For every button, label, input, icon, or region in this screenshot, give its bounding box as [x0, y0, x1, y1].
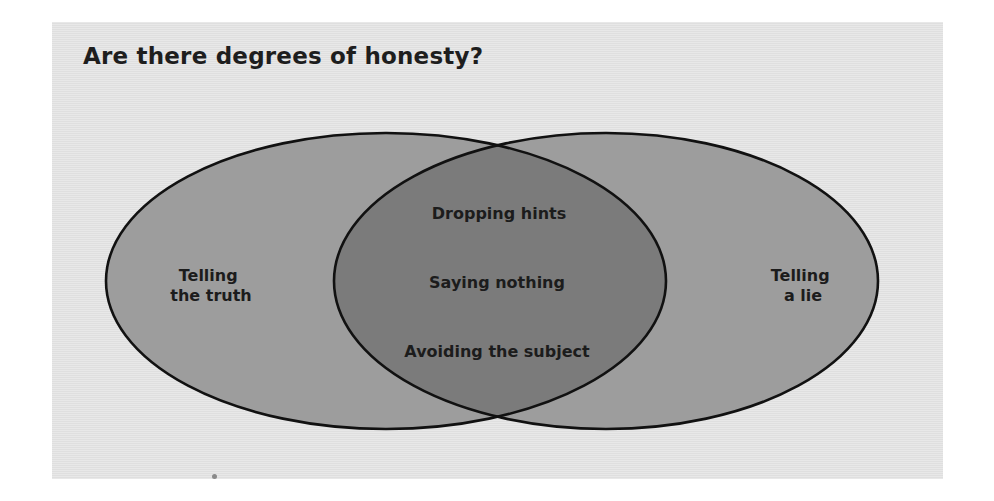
- intersection-item-avoiding-the-subject: Avoiding the subject: [404, 342, 590, 361]
- intersection-item-saying-nothing: Saying nothing: [429, 273, 565, 292]
- paper-speck: [212, 474, 217, 479]
- stage: Are there degrees of honesty? Telling th…: [0, 0, 994, 501]
- left-set-label: Telling the truth: [170, 266, 251, 305]
- venn-diagram: Telling the truth Telling a lie Dropping…: [0, 0, 994, 501]
- intersection-item-dropping-hints: Dropping hints: [432, 204, 566, 223]
